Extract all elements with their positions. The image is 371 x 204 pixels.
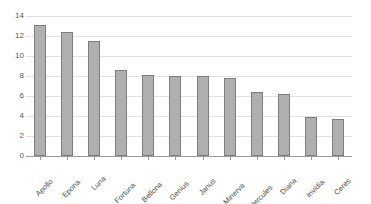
x-tick-label: Janus — [211, 163, 231, 183]
x-tick-label-text: Minerva — [222, 182, 247, 204]
x-tick-label: Invidia — [321, 163, 342, 184]
y-tick-label: 12 — [2, 32, 24, 40]
y-tick-label: 0 — [2, 152, 24, 160]
bar — [251, 92, 263, 156]
bar-chart: 02468101214 ApolloEponaLunaFortunaBellon… — [0, 0, 371, 204]
bar — [332, 119, 344, 156]
bar — [197, 76, 209, 156]
x-tick-label: Fortuna — [132, 163, 156, 187]
x-tick-label-text: Genius — [169, 180, 191, 202]
x-tick-mark — [40, 156, 41, 160]
bar — [88, 41, 100, 156]
x-tick-mark — [148, 156, 149, 160]
y-tick-label: 4 — [2, 112, 24, 120]
x-tick-label: Bellona — [159, 163, 182, 186]
y-tick-label: 2 — [2, 132, 24, 140]
bar — [61, 32, 73, 156]
bar — [224, 78, 236, 156]
x-tick-mark — [311, 156, 312, 160]
x-tick-label: Luna — [102, 163, 119, 180]
x-tick-label: Apollo — [49, 163, 69, 183]
x-axis-line — [26, 156, 352, 157]
y-tick-label: 8 — [2, 72, 24, 80]
bar — [142, 75, 154, 156]
x-tick-label-text: Bellona — [141, 181, 164, 204]
x-tick-label-text: Epona — [61, 178, 82, 199]
x-tick-label-text: Invidia — [305, 178, 326, 199]
x-tick-label-text: Luna — [90, 175, 107, 192]
y-tick-label: 10 — [2, 52, 24, 60]
x-tick-label: Ceres — [347, 163, 367, 183]
bar — [169, 76, 181, 157]
x-tick-mark — [338, 156, 339, 160]
x-tick-label-text: Apollo — [34, 178, 54, 198]
bar — [305, 117, 317, 156]
y-tick-label: 14 — [2, 12, 24, 20]
bar — [115, 70, 127, 156]
x-tick-label-text: Hercules — [248, 184, 275, 204]
x-tick-mark — [284, 156, 285, 160]
y-tick-label: 6 — [2, 92, 24, 100]
x-tick-mark — [175, 156, 176, 160]
x-tick-mark — [230, 156, 231, 160]
bars-layer — [26, 16, 352, 156]
y-axis: 02468101214 — [0, 0, 24, 204]
x-tick-label-text: Ceres — [333, 177, 353, 197]
bar — [34, 25, 46, 156]
x-tick-label: Diana — [293, 163, 313, 183]
x-tick-label: Minerva — [241, 163, 266, 188]
x-tick-mark — [257, 156, 258, 160]
x-tick-label-text: Janus — [197, 177, 217, 197]
x-tick-label-text: Fortuna — [113, 181, 137, 204]
x-tick-mark — [121, 156, 122, 160]
x-tick-mark — [94, 156, 95, 160]
x-tick-mark — [203, 156, 204, 160]
bar — [278, 94, 290, 156]
x-tick-mark — [67, 156, 68, 160]
